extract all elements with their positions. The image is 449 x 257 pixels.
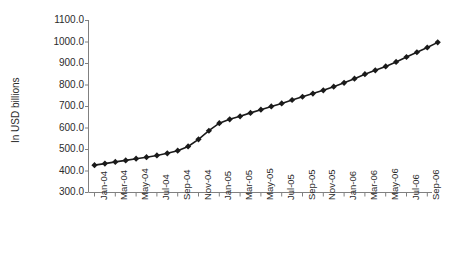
x-axis-tick-label: Nov-04: [203, 169, 213, 200]
x-axis-tick-labels: Jan-04Mar-04May-04Jul-04Sep-04Nov-04Jan-…: [0, 0, 449, 257]
x-axis-tick-label: Sep-05: [307, 169, 317, 200]
x-axis-tick-label: May-04: [140, 168, 150, 200]
x-axis-tick-label: Jul-06: [411, 174, 421, 200]
x-axis-tick-label: Sep-06: [431, 169, 441, 200]
x-axis-tick-label: May-06: [390, 168, 400, 200]
x-axis-tick-label: Jul-04: [161, 174, 171, 200]
x-axis-tick-label: Jan-04: [99, 171, 109, 200]
x-axis-tick-label: Nov-05: [327, 169, 337, 200]
x-axis-tick-label: Mar-04: [119, 170, 129, 200]
x-axis-tick-label: Sep-04: [182, 169, 192, 200]
x-axis-tick-label: Mar-05: [244, 170, 254, 200]
x-axis-tick-label: Mar-06: [369, 170, 379, 200]
x-axis-tick-label: Jan-05: [223, 171, 233, 200]
line-chart: In USD billions 1100.01000.0900.0800.070…: [0, 0, 449, 257]
x-axis-tick-label: Jul-05: [286, 174, 296, 200]
x-axis-tick-label: May-05: [265, 168, 275, 200]
x-axis-tick-label: Jan-06: [348, 171, 358, 200]
